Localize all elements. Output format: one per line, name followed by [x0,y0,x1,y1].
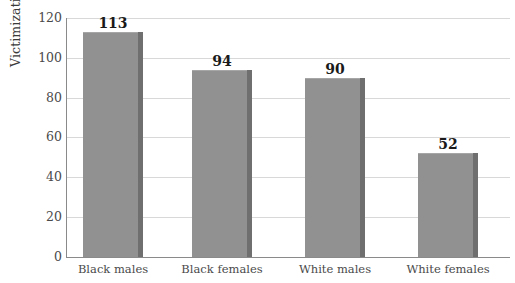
y-tick-label: 60 [32,131,62,144]
x-tick-label-white-males: White males [285,264,385,276]
bar-top-highlight [418,153,473,154]
bar-side-shadow [360,78,365,257]
bar-side-shadow [138,32,143,257]
bar-top-highlight [83,32,138,33]
x-tick-label-black-males: Black males [63,264,163,276]
bar-face [192,70,247,257]
bar-top-highlight [305,78,360,79]
bar-black-males [83,32,143,257]
bar-face [83,32,138,257]
y-tick-label: 80 [32,92,62,105]
bar-value-black-males: 113 [83,16,143,30]
bar-value-white-females: 52 [418,137,478,151]
y-tick-label: 20 [32,211,62,224]
bar-value-black-females: 94 [192,54,252,68]
x-tick-label-black-females: Black females [172,264,272,276]
y-tick-label: 120 [32,12,62,25]
bar-value-white-males: 90 [305,62,365,76]
y-tick-label: 40 [32,171,62,184]
bar-black-females [192,70,252,257]
bar-side-shadow [247,70,252,257]
bar-top-highlight [192,70,247,71]
y-axis-title: Victimization rate [2,0,28,151]
bar-chart: Victimization rate 120 100 80 60 40 20 0 [0,0,515,283]
gridline-baseline-0 [67,257,510,258]
bar-white-females [418,153,478,257]
bar-face [305,78,360,257]
bar-face [418,153,473,257]
bar-side-shadow [473,153,478,257]
y-tick-label: 0 [32,251,62,264]
bar-white-males [305,78,365,257]
y-tick-label: 100 [32,52,62,65]
y-axis-tick-labels: 120 100 80 60 40 20 0 [28,0,62,283]
x-tick-label-white-females: White females [398,264,498,276]
